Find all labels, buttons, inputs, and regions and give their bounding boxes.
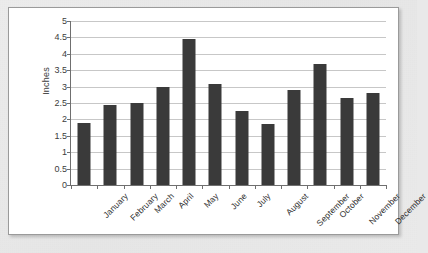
bar-august[interactable] <box>261 124 274 185</box>
bar-slot <box>97 21 123 185</box>
bar-january[interactable] <box>78 123 91 185</box>
bar-slot <box>71 21 97 185</box>
bar-june[interactable] <box>209 84 222 185</box>
chart-panel: Inches 00.511.522.533.544.55 JanuaryFebr… <box>8 7 399 235</box>
bar-september[interactable] <box>288 90 301 185</box>
figure-caption <box>0 247 417 253</box>
bar-slot <box>124 21 150 185</box>
bar-slot <box>150 21 176 185</box>
bar-october[interactable] <box>314 64 327 185</box>
bar-slot <box>202 21 228 185</box>
x-label-may: May <box>202 191 221 210</box>
bar-slot <box>255 21 281 185</box>
bar-slot <box>229 21 255 185</box>
bar-april[interactable] <box>156 87 169 185</box>
bar-may[interactable] <box>183 39 196 185</box>
bar-february[interactable] <box>104 105 117 185</box>
y-axis-tick-marks <box>9 21 71 185</box>
bar-slot <box>281 21 307 185</box>
bar-slot <box>334 21 360 185</box>
x-tick-mark <box>386 185 387 189</box>
x-label-january: January <box>101 191 130 220</box>
x-axis-category-labels: JanuaryFebruaryMarchAprilMayJuneJulyAugu… <box>71 189 386 239</box>
x-label-april: April <box>176 191 195 210</box>
bar-slot <box>176 21 202 185</box>
x-label-june: June <box>229 191 249 211</box>
bar-december[interactable] <box>366 93 379 185</box>
bar-november[interactable] <box>340 98 353 185</box>
bar-july[interactable] <box>235 111 248 185</box>
bar-march[interactable] <box>130 103 143 185</box>
x-label-july: July <box>254 191 272 209</box>
bar-slot <box>360 21 386 185</box>
bar-series <box>71 21 386 185</box>
bar-slot <box>307 21 333 185</box>
x-label-august: August <box>284 191 310 217</box>
